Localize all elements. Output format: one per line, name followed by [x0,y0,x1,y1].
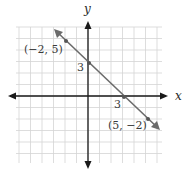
point-3-0 [122,95,126,99]
point-a-label: (−2, 5) [24,43,63,56]
y-axis [85,21,92,169]
x-axis-left-arrow-icon [8,93,16,100]
x-axis-right-arrow-icon [160,93,168,100]
y-axis-label: y [83,2,91,16]
y-axis-up-arrow-icon [85,21,92,29]
y-axis-down-arrow-icon [85,161,92,169]
point-b-label: (5, −2) [108,119,147,132]
coordinate-plane: x y (−2, 5) 3 3 (5, −2) [0,0,183,170]
line-series [54,29,160,130]
x-intercept-label: 3 [114,98,121,111]
point-neg2-5 [64,39,68,43]
y-intercept-label: 3 [77,61,84,74]
x-axis-label: x [175,89,182,103]
point-0-3 [87,61,91,65]
